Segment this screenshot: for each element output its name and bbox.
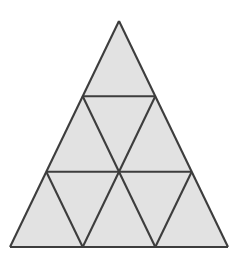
- subdivided-triangle-diagram: Equilateral triangle subdivided into nin…: [0, 0, 245, 264]
- triangle-faces-group: [10, 21, 228, 247]
- figure-canvas: Equilateral triangle subdivided into nin…: [0, 0, 245, 264]
- triangle-row1-up-1: [83, 21, 156, 96]
